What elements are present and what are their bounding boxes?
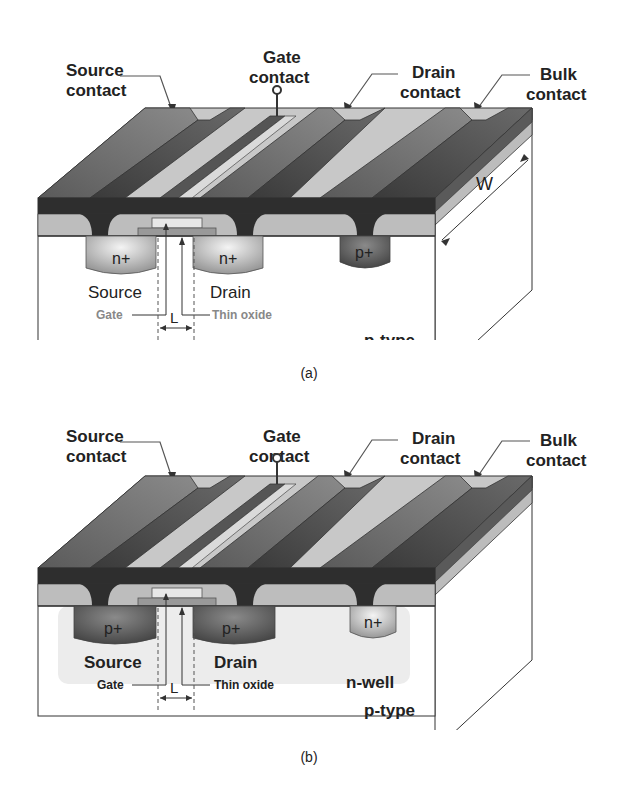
n-well-label: n-well (346, 673, 394, 692)
caption-a: (a) (0, 365, 618, 381)
drain-label: Drain (214, 653, 257, 672)
svg-text:Gate: Gate (96, 308, 123, 322)
svg-text:Source: Source (66, 61, 124, 80)
svg-text:L: L (170, 679, 178, 696)
svg-text:p+: p+ (355, 244, 373, 261)
source-contact-label: Source contact (66, 61, 176, 114)
figure-a-nmos: Source contact Gate contact Drain contac… (0, 40, 618, 340)
drain-contact-label: Drain contact (344, 430, 461, 482)
svg-text:Thin oxide: Thin oxide (214, 678, 274, 692)
source-label: Source (84, 653, 142, 672)
svg-text:Source: Source (66, 430, 124, 446)
substrate-label: p-type (364, 701, 415, 720)
svg-text:contact: contact (526, 85, 587, 104)
gate-contact-label: Gate contact (249, 48, 310, 87)
svg-text:Gate: Gate (263, 48, 301, 67)
nmos-diagram: Source contact Gate contact Drain contac… (0, 40, 618, 340)
bulk-contact-label: Bulk contact (474, 431, 587, 482)
substrate-label: p-type (364, 331, 415, 340)
svg-text:Bulk: Bulk (540, 65, 577, 84)
drain-region: p+ (193, 606, 275, 644)
svg-text:Gate: Gate (97, 678, 124, 692)
svg-text:W: W (476, 174, 493, 194)
svg-text:Gate: Gate (263, 430, 301, 446)
source-label: Source (88, 283, 142, 302)
caption-b: (b) (0, 749, 618, 765)
source-region: n+ (86, 236, 156, 274)
svg-text:n+: n+ (112, 250, 130, 267)
svg-text:contact: contact (66, 447, 127, 466)
svg-text:contact: contact (400, 83, 461, 102)
svg-text:contact: contact (66, 81, 127, 100)
svg-text:Bulk: Bulk (540, 431, 577, 450)
bulk-contact-label: Bulk contact (474, 65, 587, 114)
svg-text:Thin oxide: Thin oxide (212, 308, 272, 322)
svg-text:n+: n+ (364, 614, 382, 631)
svg-text:p+: p+ (222, 620, 240, 637)
svg-text:contact: contact (400, 449, 461, 468)
bulk-region: n+ (350, 606, 396, 638)
svg-text:Drain: Drain (412, 430, 455, 448)
pmos-diagram: Source contact Gate contact Drain contac… (0, 430, 618, 730)
drain-label: Drain (210, 283, 251, 302)
svg-text:n+: n+ (219, 250, 237, 267)
svg-text:p+: p+ (104, 620, 122, 637)
bulk-region: p+ (340, 236, 390, 268)
source-region: p+ (74, 606, 156, 644)
svg-text:contact: contact (249, 68, 310, 87)
figure-b-pmos: Source contact Gate contact Drain contac… (0, 430, 618, 730)
svg-text:L: L (170, 309, 178, 326)
drain-contact-label: Drain contact (344, 63, 461, 114)
source-contact-label: Source contact (66, 430, 176, 482)
svg-text:Drain: Drain (412, 63, 455, 82)
drain-region: n+ (193, 236, 263, 274)
svg-text:contact: contact (526, 451, 587, 470)
